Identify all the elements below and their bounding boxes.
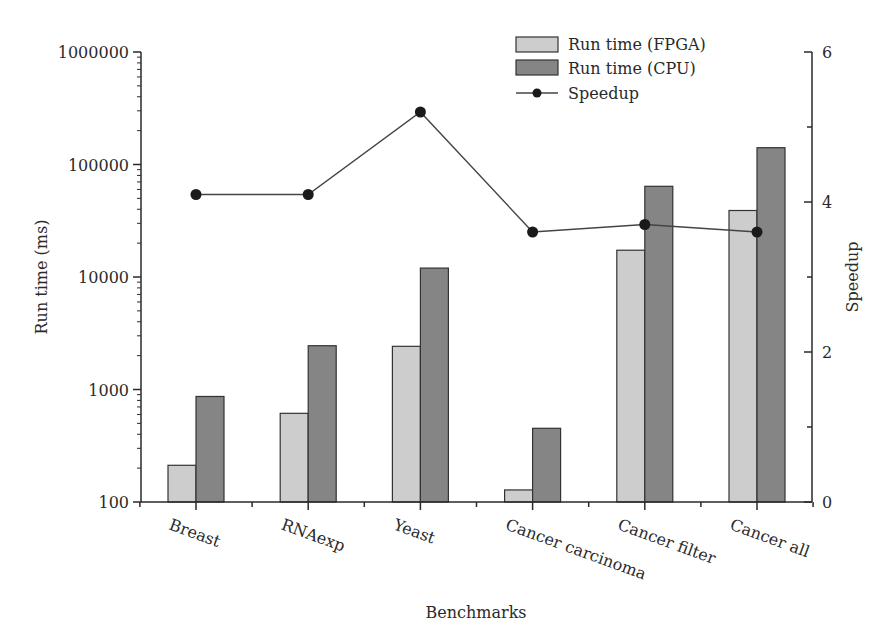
y2-tick-label: 6 xyxy=(822,43,832,62)
bar-cpu xyxy=(420,268,448,502)
y-tick-label: 100000 xyxy=(68,156,129,175)
x-category-label: Breast xyxy=(167,515,224,551)
bar-fpga xyxy=(505,490,533,502)
bar-fpga xyxy=(617,250,645,502)
bar-fpga xyxy=(168,465,196,502)
bar-fpga xyxy=(729,211,757,502)
y-tick-label: 1000000 xyxy=(58,43,129,62)
y2-tick-label: 4 xyxy=(822,193,832,212)
x-category-label: RNAexp xyxy=(279,515,348,556)
legend-swatch-cpu xyxy=(516,60,558,75)
x-axis-title: Benchmarks xyxy=(425,603,526,622)
x-category-label: Yeast xyxy=(390,515,438,548)
y-tick-label: 1000 xyxy=(88,381,129,400)
bar-cpu xyxy=(196,396,224,502)
legend-label: Run time (FPGA) xyxy=(568,35,706,54)
bar-cpu xyxy=(645,186,673,502)
bar-cpu xyxy=(757,148,785,502)
bar-fpga xyxy=(392,346,420,502)
legend: Run time (FPGA)Run time (CPU)Speedup xyxy=(516,35,706,103)
legend-swatch-fpga xyxy=(516,37,558,52)
speedup-line-layer xyxy=(191,107,763,238)
speedup-marker xyxy=(303,189,314,200)
y-tick-label: 100 xyxy=(98,493,129,512)
x-category-label: Cancer all xyxy=(728,515,813,561)
y2-tick-label: 0 xyxy=(822,493,832,512)
bars-layer xyxy=(168,148,785,502)
y-axis-title: Run time (ms) xyxy=(32,220,51,335)
speedup-marker xyxy=(191,189,202,200)
chart: 10010001000010000010000000246BreastRNAex… xyxy=(0,0,893,644)
speedup-marker xyxy=(527,227,538,238)
speedup-marker xyxy=(415,107,426,118)
y2-tick-label: 2 xyxy=(822,343,832,362)
y2-axis-title: Speedup xyxy=(843,242,862,313)
bar-cpu xyxy=(308,346,336,502)
legend-label: Speedup xyxy=(568,84,639,103)
y-tick-label: 10000 xyxy=(78,268,129,287)
legend-label: Run time (CPU) xyxy=(568,59,696,78)
bar-fpga xyxy=(280,413,308,502)
speedup-marker xyxy=(639,219,650,230)
speedup-marker xyxy=(752,227,763,238)
bar-cpu xyxy=(533,428,561,502)
